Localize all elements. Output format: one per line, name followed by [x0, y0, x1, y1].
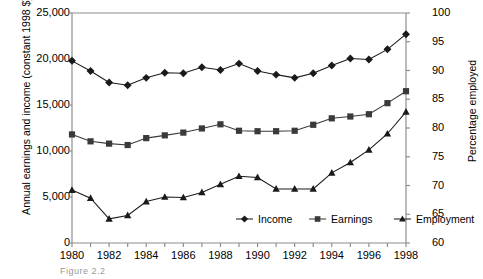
series-employment	[68, 108, 409, 222]
data-point	[235, 172, 242, 179]
series-income	[68, 30, 410, 89]
data-point	[106, 141, 112, 147]
data-point	[236, 128, 242, 134]
data-point	[125, 142, 131, 148]
data-point	[143, 135, 149, 141]
legend-marker	[241, 215, 248, 222]
data-point	[384, 100, 390, 106]
legend-label: Income	[258, 213, 293, 225]
data-point	[273, 128, 279, 134]
data-point	[199, 125, 205, 131]
data-point	[142, 74, 150, 82]
series-earnings	[69, 88, 409, 148]
data-point	[254, 128, 260, 134]
data-point	[272, 71, 280, 79]
legend-item-earnings[interactable]: Earnings	[309, 213, 372, 225]
data-point	[347, 113, 353, 119]
data-point	[198, 63, 206, 71]
data-point	[347, 159, 354, 166]
data-point	[87, 138, 93, 144]
series-layer	[68, 30, 410, 221]
data-point	[310, 122, 316, 128]
legend-item-income[interactable]: Income	[236, 213, 293, 225]
data-point	[180, 130, 186, 136]
data-point	[217, 121, 223, 127]
legend-label: Earnings	[331, 213, 372, 225]
data-point	[329, 115, 335, 121]
series-line	[72, 91, 406, 145]
figure-caption: Figure 2.2	[60, 266, 106, 276]
data-point	[328, 169, 335, 176]
data-point	[365, 55, 373, 63]
data-point	[162, 132, 168, 138]
data-point	[291, 185, 298, 192]
legend-marker	[315, 216, 321, 222]
data-point	[216, 66, 224, 74]
data-point	[346, 55, 354, 63]
data-point	[68, 186, 75, 193]
data-point	[105, 78, 113, 86]
chart-figure: Annual earnings and income (constant 199…	[0, 0, 483, 279]
data-point	[328, 61, 336, 69]
data-point	[68, 57, 76, 65]
data-point	[291, 74, 299, 82]
data-point	[124, 81, 132, 89]
data-point	[161, 69, 169, 77]
data-point	[124, 212, 131, 219]
data-point	[254, 67, 262, 75]
data-point	[403, 88, 409, 94]
data-point	[87, 67, 95, 75]
legend-label: Employment	[416, 213, 474, 225]
plot-area: IncomeEarningsEmployment	[0, 0, 483, 279]
data-point	[179, 69, 187, 77]
data-point	[69, 131, 75, 137]
data-point	[366, 111, 372, 117]
data-point	[235, 60, 243, 68]
data-point	[402, 108, 409, 115]
data-point	[272, 185, 279, 192]
data-point	[309, 69, 317, 77]
data-point	[161, 193, 168, 200]
data-point	[292, 128, 298, 134]
chart-legend: IncomeEarningsEmployment	[236, 213, 474, 225]
